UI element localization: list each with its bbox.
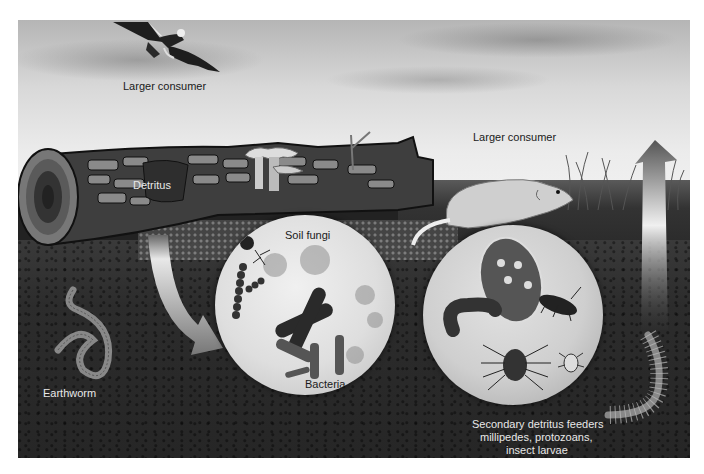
earthworm-icon — [53, 290, 128, 385]
secondary-feeders-icons — [423, 225, 603, 405]
label-rodent-larger-consumer: Larger consumer — [473, 131, 556, 143]
mushroom-cluster-icon — [243, 145, 303, 195]
label-soil-fungi: Soil fungi — [285, 229, 330, 241]
detritus-food-web-illustration: Larger consumer Detritus — [18, 20, 690, 458]
label-detritus: Detritus — [133, 179, 171, 191]
label-bacteria: Bacteria — [305, 378, 345, 390]
microbe-inset-circle: Soil fungi Bacteria — [215, 215, 395, 395]
bacteria-and-fungi-icons — [215, 215, 395, 395]
label-secondary-detritus-feeders: Secondary detritus feeders — [472, 418, 603, 430]
centipede-icon — [603, 330, 683, 425]
label-secondary-feeders-examples: millipedes, protozoans, — [480, 431, 593, 443]
arrow-up — [633, 140, 678, 330]
label-bird-larger-consumer: Larger consumer — [123, 80, 206, 92]
secondary-feeders-inset-circle — [423, 225, 603, 405]
twig — [348, 130, 378, 170]
label-earthworm: Earthworm — [43, 387, 96, 399]
bird-of-prey-icon — [108, 20, 228, 75]
label-insect-larvae: insect larvae — [506, 444, 568, 456]
